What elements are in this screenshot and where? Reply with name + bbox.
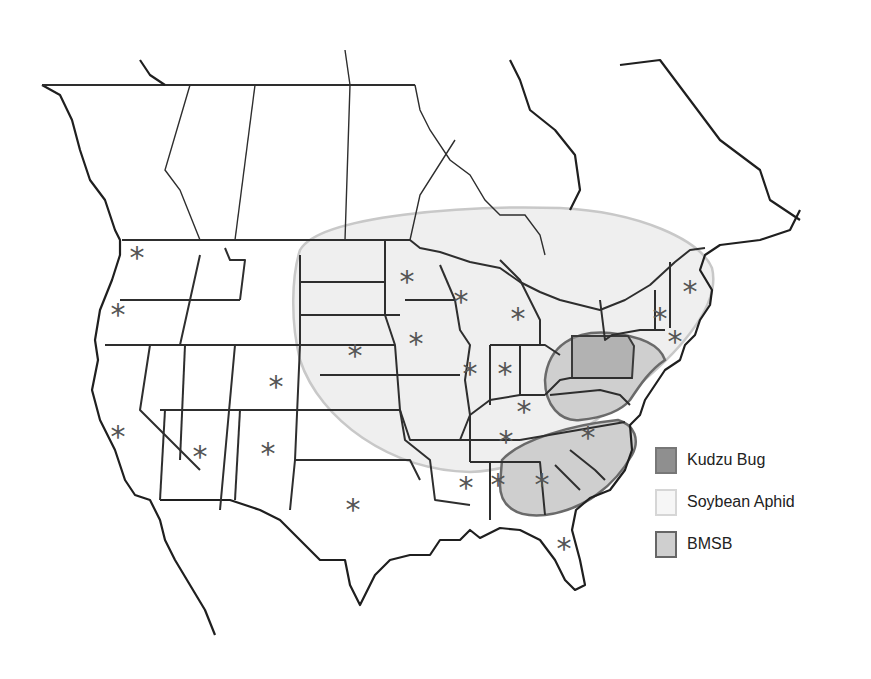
asterisk-marker: * — [269, 369, 284, 404]
legend-label: Kudzu Bug — [687, 451, 765, 469]
asterisk-marker: * — [111, 297, 126, 332]
asterisk-marker: * — [400, 264, 415, 299]
asterisk-marker: * — [346, 492, 361, 527]
north-america-map: * * * * * * * * * * * * * * * * * * * * … — [0, 0, 871, 679]
legend-item-bmsb: BMSB — [655, 534, 865, 554]
kudzu-bug-swatch — [655, 447, 677, 474]
asterisk-marker: * — [491, 467, 506, 502]
map-legend: Kudzu Bug Soybean Aphid BMSB — [655, 450, 865, 576]
asterisk-marker: * — [498, 356, 513, 391]
legend-label: Soybean Aphid — [687, 493, 795, 511]
legend-item-soybean-aphid: Soybean Aphid — [655, 492, 865, 512]
asterisk-marker: * — [454, 284, 469, 319]
asterisk-marker: * — [193, 439, 208, 474]
legend-label: BMSB — [687, 535, 732, 553]
asterisk-marker: * — [348, 338, 363, 373]
asterisk-marker: * — [557, 531, 572, 566]
asterisk-marker: * — [517, 394, 532, 429]
asterisk-marker: * — [261, 436, 276, 471]
asterisk-marker: * — [409, 326, 424, 361]
asterisk-marker: * — [459, 470, 474, 505]
asterisk-marker: * — [581, 420, 596, 455]
asterisk-marker: * — [463, 356, 478, 391]
asterisk-marker: * — [668, 324, 683, 359]
asterisk-marker: * — [653, 301, 668, 336]
asterisk-marker: * — [511, 301, 526, 336]
bmsb-swatch — [655, 531, 677, 558]
asterisk-marker: * — [499, 424, 514, 459]
legend-item-kudzu-bug: Kudzu Bug — [655, 450, 865, 470]
kudzu-bug-range — [572, 336, 634, 378]
asterisk-marker: * — [111, 419, 126, 454]
soybean-aphid-swatch — [655, 489, 677, 516]
asterisk-marker: * — [130, 240, 145, 275]
asterisk-marker: * — [683, 274, 698, 309]
asterisk-marker: * — [535, 467, 550, 502]
